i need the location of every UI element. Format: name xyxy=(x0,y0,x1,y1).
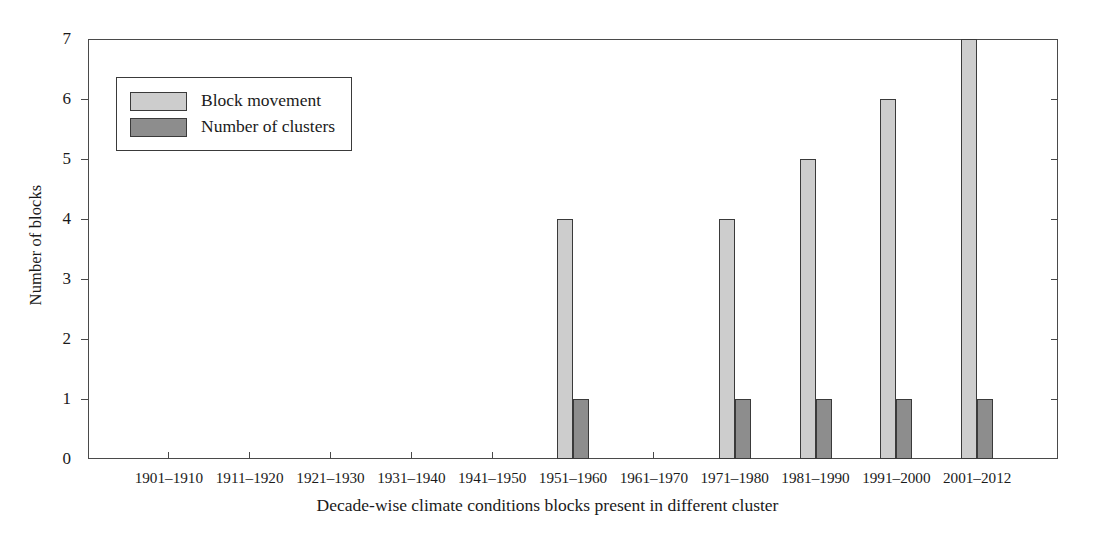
chart-figure: Number of blocks 01234567 1901–19101911–… xyxy=(0,0,1095,539)
y-tick-mark xyxy=(81,279,88,280)
y-tick-mark xyxy=(81,339,88,340)
y-tick-label: 1 xyxy=(63,388,72,410)
y-axis-title: Number of blocks xyxy=(26,35,48,455)
y-tick-mark xyxy=(81,399,88,400)
bar-block-movement-1991-2000 xyxy=(880,99,896,459)
y-tick-5: 5 xyxy=(0,159,88,160)
y-tick-mark-right xyxy=(1051,99,1058,100)
y-tick-label: 7 xyxy=(63,28,72,50)
legend-item-block-movement: Block movement xyxy=(130,88,335,114)
x-tick-mark xyxy=(168,452,169,459)
y-tick-mark xyxy=(81,99,88,100)
bar-number-of-clusters-1981-1990 xyxy=(816,399,832,459)
bar-number-of-clusters-1971-1980 xyxy=(735,399,751,459)
bar-block-movement-1981-1990 xyxy=(800,159,816,459)
bar-number-of-clusters-1951-1960 xyxy=(573,399,589,459)
y-tick-label: 6 xyxy=(63,88,72,110)
y-tick-2: 2 xyxy=(0,339,88,340)
bar-number-of-clusters-2001-2012 xyxy=(977,399,993,459)
x-tick-mark xyxy=(330,452,331,459)
legend-item-number-of-clusters: Number of clusters xyxy=(130,114,335,140)
legend-label: Number of clusters xyxy=(201,118,335,136)
x-tick-mark xyxy=(492,452,493,459)
y-tick-label: 5 xyxy=(63,148,72,170)
y-tick-label: 2 xyxy=(63,328,72,350)
y-tick-mark-right xyxy=(1051,279,1058,280)
legend-label: Block movement xyxy=(201,92,321,110)
x-tick-label: 2001–2012 xyxy=(907,469,1047,487)
y-tick-mark xyxy=(81,159,88,160)
bar-block-movement-1951-1960 xyxy=(557,219,573,459)
y-tick-label: 3 xyxy=(63,268,72,290)
y-tick-3: 3 xyxy=(0,279,88,280)
y-tick-4: 4 xyxy=(0,219,88,220)
x-tick-mark xyxy=(411,452,412,459)
x-axis-title: Decade-wise climate conditions blocks pr… xyxy=(0,495,1095,516)
chart-legend: Block movementNumber of clusters xyxy=(116,77,352,151)
y-tick-mark-right xyxy=(1051,339,1058,340)
y-tick-label: 0 xyxy=(63,448,72,470)
bar-block-movement-1971-1980 xyxy=(719,219,735,459)
y-tick-1: 1 xyxy=(0,399,88,400)
x-tick-mark xyxy=(249,452,250,459)
bar-block-movement-2001-2012 xyxy=(961,39,977,459)
y-tick-0: 0 xyxy=(0,459,88,460)
y-tick-6: 6 xyxy=(0,99,88,100)
y-tick-mark-right xyxy=(1051,399,1058,400)
y-tick-7: 7 xyxy=(0,39,88,40)
y-tick-mark-right xyxy=(1051,159,1058,160)
bar-number-of-clusters-1991-2000 xyxy=(896,399,912,459)
x-tick-mark xyxy=(653,452,654,459)
legend-swatch-icon xyxy=(130,118,187,137)
y-tick-mark xyxy=(81,219,88,220)
legend-swatch-icon xyxy=(130,92,187,111)
y-tick-label: 4 xyxy=(63,208,72,230)
y-tick-mark-right xyxy=(1051,219,1058,220)
